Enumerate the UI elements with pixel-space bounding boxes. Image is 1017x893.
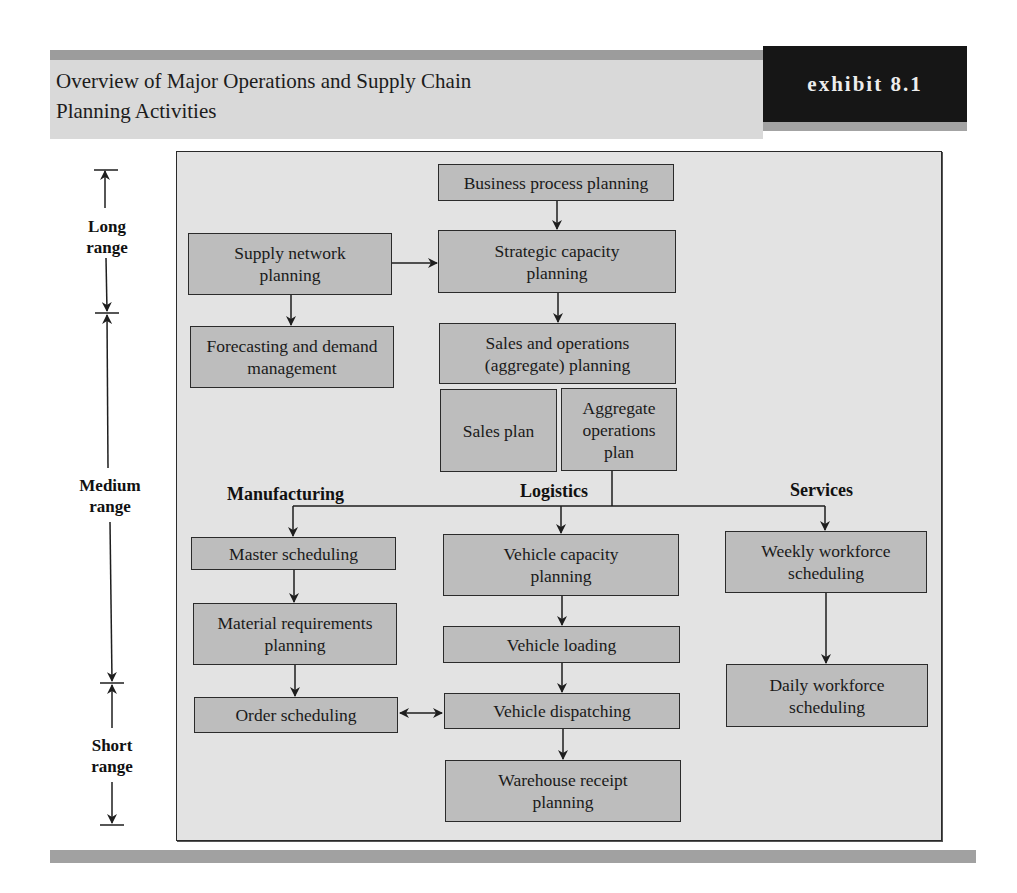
exhibit-badge: exhibit 8.1 xyxy=(763,46,967,122)
range-label-short: Short range xyxy=(67,735,157,777)
range-short-line2: range xyxy=(67,756,157,777)
title-line-2: Planning Activities xyxy=(56,96,616,126)
node-aggregate-operations-plan: Aggregate operations plan xyxy=(561,388,677,471)
exhibit-title: Overview of Major Operations and Supply … xyxy=(56,66,616,126)
node-material-requirements-planning: Material requirements planning xyxy=(193,603,397,665)
node-order-scheduling: Order scheduling xyxy=(194,697,398,733)
range-label-long: Long range xyxy=(62,216,152,258)
node-vehicle-dispatching: Vehicle dispatching xyxy=(444,693,680,729)
node-sales-operations-planning: Sales and operations (aggregate) plannin… xyxy=(439,323,676,384)
range-label-medium: Medium range xyxy=(65,475,155,517)
node-vehicle-capacity-planning: Vehicle capacity planning xyxy=(443,534,679,596)
range-long-line1: Long xyxy=(62,216,152,237)
section-label-logistics: Logistics xyxy=(520,481,588,502)
node-master-scheduling: Master scheduling xyxy=(191,537,396,570)
header-top-bar xyxy=(50,50,763,60)
bottom-rule xyxy=(50,850,976,863)
range-short-line1: Short xyxy=(67,735,157,756)
node-business-process-planning: Business process planning xyxy=(438,164,674,201)
node-strategic-capacity-planning: Strategic capacity planning xyxy=(438,230,676,293)
section-label-manufacturing: Manufacturing xyxy=(227,484,344,505)
title-line-1: Overview of Major Operations and Supply … xyxy=(56,66,616,96)
node-daily-workforce-scheduling: Daily workforce scheduling xyxy=(726,664,928,727)
node-vehicle-loading: Vehicle loading xyxy=(443,626,680,663)
node-supply-network-planning: Supply network planning xyxy=(188,233,392,295)
range-medium-line2: range xyxy=(65,496,155,517)
section-label-services: Services xyxy=(790,480,853,501)
range-medium-line1: Medium xyxy=(65,475,155,496)
exhibit-number: exhibit 8.1 xyxy=(807,72,922,97)
node-sales-plan: Sales plan xyxy=(440,389,557,472)
range-long-line2: range xyxy=(62,237,152,258)
node-forecasting-demand-management: Forecasting and demand management xyxy=(190,326,394,388)
node-warehouse-receipt-planning: Warehouse receipt planning xyxy=(445,760,681,822)
node-weekly-workforce-scheduling: Weekly workforce scheduling xyxy=(725,531,927,593)
